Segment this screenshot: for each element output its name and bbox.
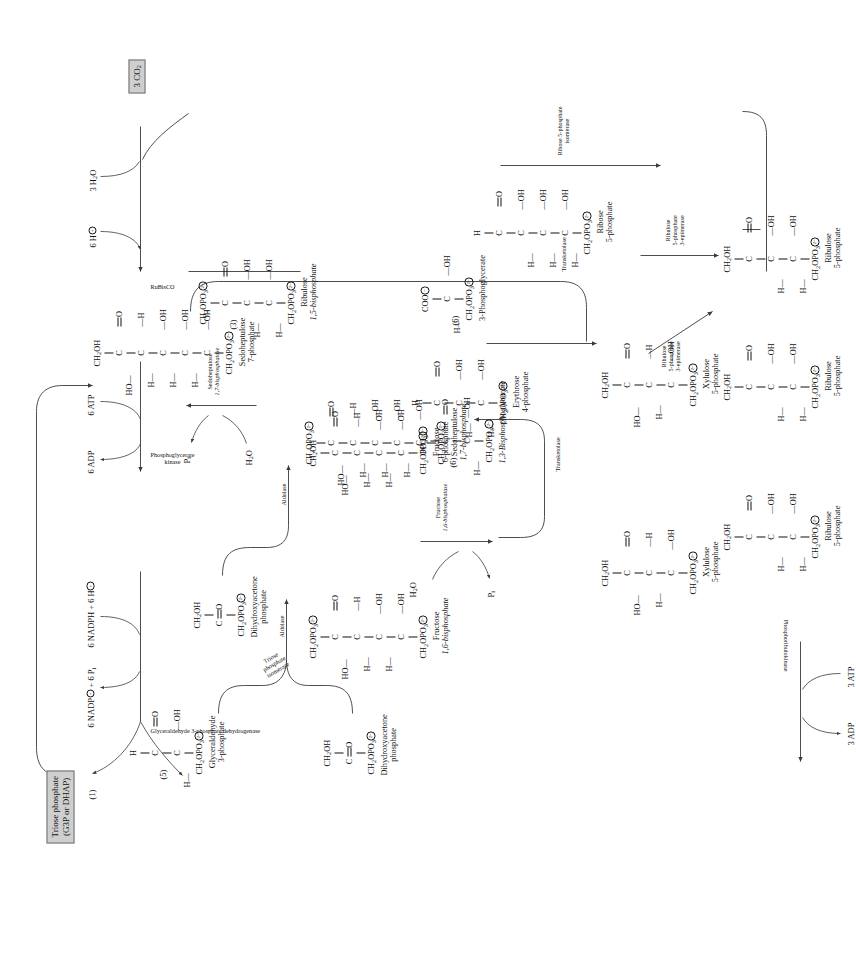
xu5pa-name-line2: 5-phosphate	[710, 353, 719, 394]
ru5pa-name-line1: Ribulose	[823, 233, 832, 263]
rubp-name-line2: 1,5-bisphosphate	[308, 263, 317, 320]
structure-ru5p-c: CH2OH CO C—OH H— C—OH H— CH2OPO32− Ribul…	[722, 492, 842, 559]
dhap2-name-line2: phosphate	[258, 590, 267, 624]
input-water-label: 3 H2O	[88, 169, 98, 191]
enzyme-rubisco-label: RuBisCO	[150, 283, 174, 290]
cofactor-adp6-label: 6 ADP	[86, 450, 96, 473]
dhap1-name-line2: phosphate	[388, 728, 397, 762]
r5p-name-line2: 5-phosphate	[604, 201, 613, 242]
cofactor-h2o-sbpase: H2O	[244, 450, 254, 465]
s7p-name-line2: 7-phosphate	[246, 321, 255, 362]
ru5pc-name-line1: Ribulose	[823, 511, 832, 541]
output-triose-phosphate-box: Triose phosphate (G3P or DHAP)	[46, 770, 74, 843]
xu5pb-name-line2: 5-phosphate	[710, 541, 719, 582]
enzyme-fbpase-label: Fructose 1,6-bisphosphatase	[434, 483, 448, 531]
cofactor-atp6-label: 6 ATP	[86, 394, 96, 415]
structure-sbp: CH2OPO32− CO HO— C—H H— C—OH H— C—OH H— …	[304, 398, 468, 465]
enzyme-transketolase-label-1: Transketolase	[554, 437, 561, 471]
enzyme-rpe1-line1: Ribulose	[663, 219, 670, 241]
enzyme-rpe1-line3: 3-epimerase	[677, 215, 684, 245]
ru5pc-name-line2: 5-phosphate	[832, 505, 841, 546]
cofactor-atp3-label: 3 ATP	[846, 666, 856, 687]
fbp-name-line2: 1,6-bisphosphate	[440, 597, 449, 654]
g3p-name-line2: 3-phosphate	[216, 721, 225, 762]
enzyme-r5pi-line1: Ribose 5-phosphate	[555, 106, 562, 155]
output-line1: Triose phosphate	[49, 776, 59, 837]
g3p-name-line1: Glyceraldehyde	[207, 715, 216, 768]
cofactor-pi-fbpase: Pi	[486, 591, 496, 597]
structure-dhap-1: CH2OH CO CH2OPO32− Dihydroxyacetone phos…	[322, 714, 398, 775]
e4p-name-line1: Erythrose	[511, 375, 520, 407]
sbp-name-line1: Sedoheptulose	[449, 407, 458, 455]
e4p-name-line2: 4-phosphate	[520, 371, 529, 412]
structure-xu5p-b: CH2OH CO HO— C—H H— C—OH CH2OPO32− Xylul…	[600, 528, 720, 595]
output-line2: (G3P or DHAP)	[60, 777, 70, 835]
fbp-name-line1: Fructose	[431, 611, 440, 640]
structure-s7p: CH2OH CO HO— C—H H— C—OH H— C—OH H— C—OH…	[92, 308, 256, 375]
r5p-name-line1: Ribose	[595, 210, 604, 233]
rubp-name-line1: Ribulose	[299, 277, 308, 307]
cofactor-adp3-label: 3 ADP	[846, 722, 856, 745]
enzyme-r5pi-line2: isomerase	[562, 118, 569, 143]
cofactor-nadph-label: 6 NADPH + 6 H+	[86, 581, 96, 647]
stoich-triose-out: (1)	[86, 789, 96, 799]
stoich-g3p: (5)	[158, 769, 167, 779]
ru5pb-name-line2: 5-phosphate	[832, 355, 841, 396]
enzyme-r5pi-label: Ribose 5-phosphate isomerase	[556, 106, 570, 155]
structure-fbp: CH2OPO32− CO HO— C—H H— C—OH H— C—OH CH2…	[308, 592, 450, 659]
enzyme-rpe1-line2: 5-phosphate	[670, 215, 677, 245]
enzyme-fbpase-line2: 1,6-bisphosphatase	[440, 483, 447, 531]
input-co2-box: 3 CO2	[128, 59, 145, 93]
structure-r5p: H CO C—OH H— C—OH H— C—OH H— CH2OPO32− R…	[472, 188, 614, 255]
dhap2-name-line1: Dihydroxyacetone	[249, 576, 258, 637]
output-proton-label: 6 H+	[88, 226, 98, 247]
xu5pa-name-line1: Xylulose	[701, 358, 710, 388]
enzyme-aldolase-label-2: Aldolase	[280, 483, 287, 505]
structure-3pga: (6) COO− C—OH H— CH2OPO32− 3-Phosphoglyc…	[420, 254, 486, 321]
enzyme-aldolase-label-1: Aldolase	[278, 615, 285, 637]
xu5pb-name-line1: Xylulose	[701, 546, 710, 576]
structure-ru5p-b: CH2OH CO C—OH H— C—OH H— CH2OPO32− Ribul…	[722, 342, 842, 409]
dhap1-name-line1: Dihydroxyacetone	[379, 714, 388, 775]
ru5pb-name-line1: Ribulose	[823, 361, 832, 391]
pga-name: 3-Phosphoglycerate	[477, 254, 486, 320]
cofactor-pi-sbpase: Pi	[182, 457, 192, 463]
enzyme-rpe-label-1: Ribulose 5-phosphate 3-epimerase	[664, 215, 684, 245]
enzyme-prk-label: Phosphoribulokinase	[782, 619, 789, 671]
structure-xu5p-a: CH2OH CO HO— C—H H— C—OH CH2OPO32− Xylul…	[600, 340, 720, 407]
structure-ru5p-a: CH2OH CO C—OH H— C—OH H— CH2OPO32− Ribul…	[722, 214, 842, 281]
enzyme-pgk-line2: kinase	[164, 457, 180, 464]
structure-g3p: (5) H CO C—OH H— CH2OPO32− Glyceraldehyd…	[128, 708, 226, 775]
structure-dhap-2: CH2OH CO CH2OPO32− Dihydroxyacetone phos…	[192, 576, 268, 637]
ru5pa-name-line2: 5-phosphate	[832, 227, 841, 268]
enzyme-fbpase-line1: Fructose	[433, 496, 440, 517]
s7p-name-line1: Sedoheptulose	[237, 317, 246, 365]
enzyme-pgk-line1: Phosphoglycerate	[150, 450, 194, 457]
cofactor-nadp-pi-label: 6 NADP+ + 6 Pi	[86, 667, 96, 727]
sbp-name-line2: 1,7-bisphosphate	[458, 403, 467, 460]
